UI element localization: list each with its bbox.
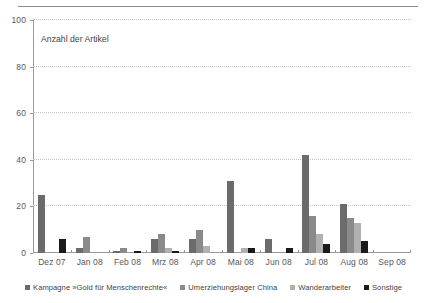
x-tick-mark	[260, 250, 261, 253]
legend-label: Wanderarbeiter	[298, 283, 351, 292]
bar[interactable]	[203, 246, 210, 253]
bar-groups	[33, 20, 411, 253]
x-tick-mark	[410, 250, 411, 253]
bar-group	[298, 20, 336, 253]
bar-group	[184, 20, 222, 253]
bar[interactable]	[196, 230, 203, 253]
bar[interactable]	[113, 251, 120, 253]
bar[interactable]	[83, 237, 90, 253]
bar[interactable]	[316, 234, 323, 253]
bar-group	[222, 20, 260, 253]
bar[interactable]	[323, 244, 330, 253]
plot-area: 020406080100 Anzahl der Artikel	[33, 20, 411, 253]
legend-item[interactable]: Wanderarbeiter	[290, 283, 351, 292]
legend-item[interactable]: Umerziehungslager China	[180, 283, 277, 292]
x-axis-label: Apr 08	[184, 257, 222, 267]
bar[interactable]	[302, 155, 309, 253]
y-tick-label-100: 100	[12, 15, 26, 25]
x-tick-mark	[373, 250, 374, 253]
y-tick-label-60: 60	[16, 108, 26, 118]
y-tick-label-80: 80	[16, 62, 26, 72]
x-tick-mark	[109, 250, 110, 253]
bar[interactable]	[76, 248, 83, 253]
x-tick-mark	[33, 250, 34, 253]
x-axis-label: Aug 08	[335, 257, 373, 267]
bar[interactable]	[227, 181, 234, 253]
bar-group	[33, 20, 71, 253]
y-tick-label-40: 40	[16, 155, 26, 165]
bar[interactable]	[165, 248, 172, 253]
legend-swatch-icon	[290, 285, 295, 290]
bar[interactable]	[286, 248, 293, 253]
bar[interactable]	[241, 248, 248, 253]
x-axis-label: Mai 08	[222, 257, 260, 267]
x-tick-mark	[184, 250, 185, 253]
x-axis-labels: Dez 07Jan 08Feb 08Mrz 08Apr 08Mai 08Jun …	[33, 257, 411, 267]
y-tick-mark-0	[30, 253, 33, 254]
x-tick-mark	[335, 250, 336, 253]
legend-item[interactable]: Sonstige	[364, 283, 402, 292]
bar[interactable]	[347, 218, 354, 253]
x-axis-label: Sep 08	[373, 257, 411, 267]
bar-group	[335, 20, 373, 253]
legend-label: Kampagne »Gold für Menschenrechte«	[33, 283, 167, 292]
bar[interactable]	[354, 223, 361, 253]
bar[interactable]	[340, 204, 347, 253]
y-tick-label-0: 0	[21, 248, 26, 258]
bar[interactable]	[248, 248, 255, 253]
legend-item[interactable]: Kampagne »Gold für Menschenrechte«	[25, 283, 167, 292]
bar[interactable]	[59, 239, 66, 253]
bar[interactable]	[361, 241, 368, 253]
x-tick-mark	[222, 250, 223, 253]
bar-group	[373, 20, 411, 253]
legend-swatch-icon	[364, 285, 369, 290]
legend-swatch-icon	[25, 285, 30, 290]
x-axis-label: Jun 08	[260, 257, 298, 267]
x-axis-label: Jan 08	[71, 257, 109, 267]
x-axis-label: Dez 07	[33, 257, 71, 267]
bar-group	[260, 20, 298, 253]
legend-label: Umerziehungslager China	[188, 283, 277, 292]
bar[interactable]	[189, 239, 196, 253]
bar[interactable]	[158, 234, 165, 253]
x-tick-mark	[146, 250, 147, 253]
bar[interactable]	[120, 248, 127, 253]
bar[interactable]	[151, 239, 158, 253]
x-axis-label: Feb 08	[109, 257, 147, 267]
chart-figure: 020406080100 Anzahl der Artikel Dez 07Ja…	[0, 0, 427, 303]
x-tick-mark	[71, 250, 72, 253]
bar-group	[109, 20, 147, 253]
bar[interactable]	[309, 216, 316, 253]
y-tick-label-20: 20	[16, 201, 26, 211]
bar[interactable]	[172, 251, 179, 253]
legend-swatch-icon	[180, 285, 185, 290]
legend-label: Sonstige	[372, 283, 402, 292]
bar[interactable]	[38, 195, 45, 253]
bar[interactable]	[134, 251, 141, 253]
chart-legend: Kampagne »Gold für Menschenrechte«Umerzi…	[0, 283, 427, 292]
x-axis-label: Mrz 08	[146, 257, 184, 267]
x-tick-mark	[298, 250, 299, 253]
bar-group	[146, 20, 184, 253]
top-divider-rule	[18, 6, 418, 7]
bar-group	[71, 20, 109, 253]
bar[interactable]	[265, 239, 272, 253]
x-axis-label: Jul 08	[298, 257, 336, 267]
